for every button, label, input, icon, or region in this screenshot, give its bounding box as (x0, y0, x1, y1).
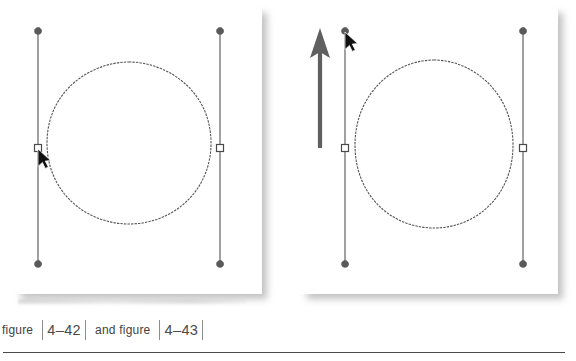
figure-4-42-illustration (14, 6, 262, 294)
left-handle-bottom-endpoint[interactable] (341, 260, 348, 267)
circle-path[interactable] (47, 62, 211, 224)
arrow-pointer-cursor (38, 149, 51, 168)
right-handle-top-endpoint[interactable] (519, 27, 526, 34)
figure-reference-number: 4–43 (160, 322, 202, 338)
reference-bar-right (85, 320, 86, 340)
caption-text-between: and figure (95, 323, 150, 337)
figure-reference-4-43[interactable]: 4–43 (159, 320, 203, 340)
horizontal-rule (3, 352, 565, 353)
figure-4-43-illustration (300, 6, 558, 294)
figure-panel-left (14, 6, 262, 294)
caption-text-before: figure (2, 323, 33, 337)
right-handle-bottom-endpoint[interactable] (519, 260, 526, 267)
arrow-pointer-cursor (345, 32, 358, 51)
left-anchor-point[interactable] (342, 145, 349, 152)
left-handle-top-endpoint[interactable] (34, 27, 41, 34)
figure-panel-right (300, 6, 558, 294)
right-handle-bottom-endpoint[interactable] (216, 260, 223, 267)
scan-bleed-artifact (18, 299, 246, 304)
left-handle-bottom-endpoint[interactable] (34, 260, 41, 267)
figure-caption: figure 4–42 and figure 4–43 (2, 318, 212, 342)
right-anchor-point[interactable] (217, 145, 224, 152)
right-anchor-point[interactable] (520, 145, 527, 152)
circle-path[interactable] (355, 60, 513, 228)
upward-drag-arrow-icon (310, 28, 330, 148)
document-page: figure 4–42 and figure 4–43 (0, 0, 576, 361)
right-handle-top-endpoint[interactable] (216, 27, 223, 34)
figure-reference-number: 4–42 (43, 322, 85, 338)
reference-bar-right (202, 320, 203, 340)
figure-reference-4-42[interactable]: 4–42 (42, 320, 86, 340)
